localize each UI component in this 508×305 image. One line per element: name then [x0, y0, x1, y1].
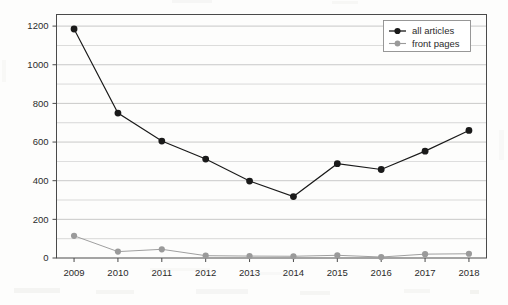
- x-tick-label: 2016: [371, 267, 392, 278]
- data-point-marker: [115, 249, 121, 255]
- x-tick-label: 2017: [415, 267, 436, 278]
- data-point-marker: [378, 254, 384, 260]
- x-tick-label: 2012: [195, 267, 216, 278]
- legend-label-front-pages: front pages: [412, 38, 460, 49]
- y-tick-label: 400: [33, 175, 49, 186]
- legend-marker-front-pages: [395, 41, 401, 47]
- data-point-marker: [466, 251, 472, 257]
- data-point-marker: [466, 127, 473, 134]
- x-axis: 2009201020112012201320142015201620172018: [63, 258, 479, 278]
- data-point-marker: [290, 253, 296, 259]
- data-point-marker: [71, 26, 78, 33]
- series-front-pages: [71, 233, 472, 260]
- data-point-marker: [246, 253, 252, 259]
- y-tick-label: 600: [33, 136, 49, 147]
- chart-legend: all articles front pages: [384, 21, 471, 52]
- data-point-marker: [290, 193, 297, 200]
- data-point-marker: [115, 110, 122, 117]
- x-tick-label: 2015: [327, 267, 348, 278]
- x-tick-label: 2009: [63, 267, 84, 278]
- x-tick-label: 2013: [239, 267, 260, 278]
- series-line: [74, 29, 469, 197]
- x-tick-label: 2010: [107, 267, 128, 278]
- chart-figure: 020040060080010001200 200920102011201220…: [0, 0, 508, 305]
- y-tick-label: 800: [33, 98, 49, 109]
- x-tick-label: 2014: [283, 267, 304, 278]
- data-point-marker: [71, 233, 77, 239]
- data-point-marker: [158, 138, 165, 145]
- legend-label-all-articles: all articles: [412, 25, 454, 36]
- y-tick-label: 1000: [27, 59, 48, 70]
- data-point-marker: [203, 253, 209, 259]
- data-point-marker: [202, 156, 209, 163]
- legend-marker-all-articles: [394, 28, 400, 34]
- y-tick-label: 0: [43, 252, 48, 263]
- y-tick-label: 1200: [27, 20, 48, 31]
- data-point-marker: [159, 246, 165, 252]
- data-point-marker: [334, 160, 341, 167]
- x-tick-label: 2018: [458, 267, 479, 278]
- data-point-marker: [422, 148, 429, 155]
- data-point-marker: [422, 251, 428, 257]
- data-point-marker: [334, 252, 340, 258]
- x-tick-label: 2011: [152, 267, 172, 278]
- line-chart-canvas: 020040060080010001200 200920102011201220…: [0, 0, 508, 305]
- y-axis: 020040060080010001200: [27, 20, 56, 263]
- y-tick-label: 200: [33, 214, 49, 225]
- data-point-marker: [378, 166, 385, 173]
- data-point-marker: [246, 178, 253, 185]
